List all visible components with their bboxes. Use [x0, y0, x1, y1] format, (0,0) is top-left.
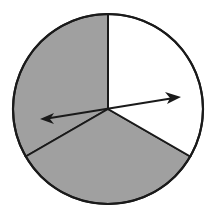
spinner-diagram	[0, 0, 212, 214]
